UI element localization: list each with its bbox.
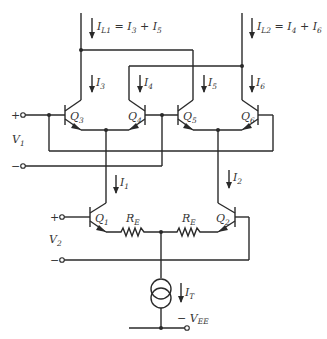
i5-label: I5 bbox=[207, 76, 217, 91]
arrow-down-icon bbox=[201, 75, 207, 93]
v1-plus-terminal[interactable] bbox=[21, 113, 26, 118]
i1-label: I1 bbox=[119, 176, 129, 191]
vee-terminal[interactable] bbox=[185, 326, 190, 331]
i2-label: I2 bbox=[232, 171, 242, 186]
q5-label: Q5 bbox=[183, 110, 197, 125]
current-source-icon bbox=[151, 279, 171, 308]
arrow-down-icon bbox=[178, 283, 184, 303]
resistor-re-left bbox=[106, 228, 161, 236]
i6-label: I6 bbox=[255, 76, 265, 91]
i4-label: I4 bbox=[143, 76, 153, 91]
v2-plus-label: + bbox=[50, 211, 59, 224]
v1-wiring bbox=[25, 113, 273, 166]
arrow-down-icon bbox=[249, 75, 255, 93]
q4-label: Q4 bbox=[128, 110, 142, 125]
v1-minus-label: − bbox=[11, 160, 20, 173]
q1-label: Q1 bbox=[95, 212, 109, 227]
v2-minus-terminal[interactable] bbox=[60, 258, 65, 263]
vee-label: − VEE bbox=[177, 312, 209, 326]
q3-label: Q3 bbox=[70, 110, 84, 125]
q2-label: Q2 bbox=[216, 212, 230, 227]
q6-label: Q6 bbox=[241, 110, 255, 125]
v2-label: V2 bbox=[49, 233, 62, 248]
gilbert-cell-schematic: IL1 = I3 + I5 IL2 = I4 + I6 bbox=[0, 0, 327, 339]
resistor-re-right bbox=[161, 228, 218, 236]
v1-minus-terminal[interactable] bbox=[21, 164, 26, 169]
arrow-down-icon bbox=[89, 18, 95, 39]
re-left-label: RE bbox=[125, 212, 140, 227]
i3-label: I3 bbox=[95, 76, 105, 91]
it-label: IT bbox=[184, 286, 195, 301]
v1-label: V1 bbox=[12, 133, 25, 148]
arrow-down-icon bbox=[89, 75, 95, 93]
v2-plus-terminal[interactable] bbox=[60, 215, 65, 220]
arrow-down-icon bbox=[137, 75, 143, 93]
v1-plus-label: + bbox=[11, 109, 20, 122]
arrow-down-icon bbox=[249, 18, 255, 39]
arrow-down-icon bbox=[113, 175, 119, 194]
re-right-label: RE bbox=[181, 212, 196, 227]
il2-label: IL2 = I4 + I6 bbox=[256, 20, 322, 35]
arrow-down-icon bbox=[226, 170, 232, 189]
il1-label: IL1 = I3 + I5 bbox=[96, 20, 162, 35]
v2-minus-label: − bbox=[50, 254, 59, 267]
